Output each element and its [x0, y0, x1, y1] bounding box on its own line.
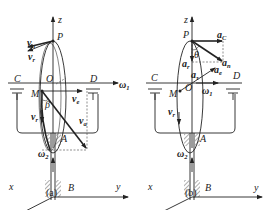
label-vr-b: vr — [168, 106, 175, 118]
label-ac-b: aC — [217, 29, 227, 41]
label-d-a: D — [89, 73, 98, 84]
label-p-b: P — [182, 29, 189, 40]
label-b-b: B — [205, 182, 211, 193]
label-p-a: P — [56, 31, 63, 42]
diagram-canvas: z P vn vr C D O M ω1 ve β vr va A ω2 B y… — [0, 0, 268, 210]
label-m-a: M — [30, 88, 40, 99]
label-beta-a: β — [44, 99, 50, 110]
label-a-a: A — [60, 133, 68, 144]
label-omega1-b: ω1 — [202, 85, 212, 97]
caption-b: (b) — [185, 187, 197, 199]
label-at-b: aτ — [191, 69, 200, 81]
frame-box-b — [155, 94, 235, 133]
label-a-b: A — [199, 133, 207, 144]
x-axis-b — [150, 197, 192, 210]
bearing-c-b — [148, 89, 162, 100]
label-c-b: C — [151, 72, 158, 83]
label-b-a: B — [68, 182, 74, 193]
label-d-b: D — [232, 70, 241, 81]
panel-b: z P aC θ ar an aτ ae C D O M ω1 vr A ω2 … — [146, 14, 262, 210]
label-c-a: C — [14, 73, 21, 84]
label-theta-b: θ — [194, 49, 199, 60]
label-x-a: x — [8, 181, 14, 192]
caption-a: (a) — [46, 187, 57, 199]
bearing-c — [10, 89, 24, 100]
label-m-b: M — [168, 88, 178, 99]
frame-box-a — [17, 94, 98, 133]
label-o-b: O — [185, 82, 192, 93]
label-vr-top-a: vr — [28, 51, 35, 63]
label-ve-a: ve — [72, 93, 79, 105]
label-z-b: z — [183, 14, 188, 25]
label-va-a: va — [79, 115, 87, 127]
label-y-a: y — [115, 181, 121, 192]
label-ae-b: ae — [214, 64, 222, 76]
label-z-a: z — [57, 14, 62, 25]
label-ar-b: ar — [182, 58, 190, 70]
label-vr-bottom-a: vr — [31, 111, 38, 123]
label-omega1-a: ω1 — [119, 79, 129, 91]
label-an-b: an — [222, 57, 231, 69]
label-omega2-b: ω2 — [177, 148, 188, 160]
panel-a: z P vn vr C D O M ω1 ve β vr va A ω2 B y… — [8, 14, 129, 210]
label-vn-a: vn — [27, 37, 35, 49]
bearing-d-b — [226, 89, 240, 100]
label-y-b: y — [253, 182, 259, 193]
label-o-a: O — [46, 73, 53, 84]
label-x-b: x — [147, 181, 153, 192]
x-axis-a — [12, 197, 53, 210]
